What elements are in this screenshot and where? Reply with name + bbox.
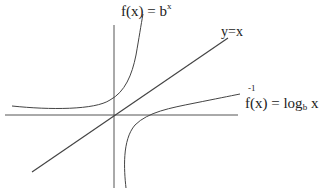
logarithm-label-suffix: x: [307, 95, 318, 111]
exponential-label-superscript: x: [167, 1, 172, 11]
inverse-mark: -1: [248, 84, 256, 93]
identity-label-text: y=x: [221, 24, 243, 39]
logarithm-label: f(x) = logb x: [245, 96, 318, 111]
identity-label: y=x: [221, 25, 243, 39]
logarithm-curve: [125, 94, 240, 188]
exponential-label-text: f(x) = b: [121, 3, 167, 19]
exponential-curve: [12, 14, 143, 108]
inverse-mark-text: -1: [248, 83, 256, 93]
identity-line: [32, 38, 228, 172]
logarithm-label-subscript: b: [303, 102, 308, 112]
exponential-label: f(x) = bx: [121, 4, 171, 19]
logarithm-label-text: f(x) = log: [245, 95, 303, 111]
